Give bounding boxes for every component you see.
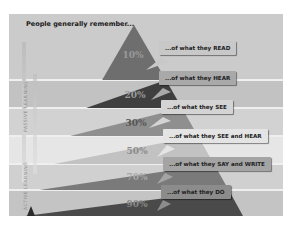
percent-30: 30%	[116, 118, 156, 128]
callout-say-and-write: ...of what they SAY and WRITE	[163, 157, 271, 171]
callout-hear: ...of what they HEAR	[159, 71, 236, 85]
callout-do: ...of what they DO	[161, 185, 231, 199]
percent-90: 90%	[117, 199, 157, 209]
pyramid-graphic	[9, 14, 283, 216]
callout-see: ...of what they SEE	[161, 100, 233, 114]
percent-20: 20%	[115, 90, 155, 100]
callout-read: ...of what they READ	[159, 41, 236, 55]
callout-see-and-hear: ...of what they SEE and HEAR	[163, 129, 268, 143]
arrow-head-icon	[27, 206, 35, 216]
percent-50: 50%	[117, 146, 157, 156]
diagram-title: People generally remember...	[26, 20, 134, 28]
percent-10: 10%	[113, 50, 153, 60]
percent-70: 70%	[117, 172, 157, 182]
learning-pyramid-panel: PASSIVE LEARNING ACTIVE LEARNING People …	[9, 14, 283, 216]
